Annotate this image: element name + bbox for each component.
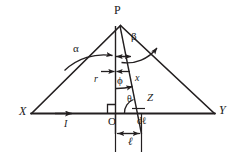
right-angle-marker	[108, 105, 116, 114]
segment-label-x: x	[135, 73, 139, 83]
point-label-Z: Z	[147, 92, 153, 103]
segment-label-dl: dℓ	[137, 116, 147, 126]
angle-label-theta: θ	[127, 94, 132, 104]
point-label-O: O	[108, 116, 116, 127]
alpha-arc	[65, 55, 113, 71]
current-label-I: I	[64, 119, 67, 129]
segment-label-r: r	[94, 74, 98, 84]
angle-label-beta: β	[131, 31, 137, 42]
angle-arcs	[65, 48, 158, 113]
segment-label-l: ℓ	[128, 136, 133, 147]
point-label-P: P	[114, 4, 121, 16]
phi-arc	[116, 87, 133, 89]
side-PX	[32, 26, 121, 114]
point-label-Y: Y	[219, 104, 226, 116]
angle-label-phi: ϕ	[117, 75, 123, 86]
point-label-X: X	[19, 105, 26, 117]
angle-label-alpha: α	[73, 43, 79, 54]
